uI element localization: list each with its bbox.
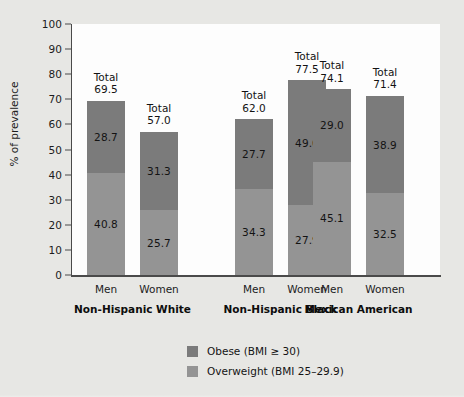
y-tick-label: 0	[0, 269, 62, 281]
y-tick-mark	[65, 249, 71, 250]
bar-segment-value: 31.3	[147, 165, 171, 177]
bar-segment-value: 34.3	[242, 226, 266, 238]
legend-item: Obese (BMI ≥ 30)	[187, 341, 344, 361]
bar-segment-overweight: 45.1	[313, 162, 351, 275]
bar-segment-obese: 38.9	[366, 96, 404, 194]
y-tick-mark	[65, 275, 71, 276]
bar-total-label: Total62.0	[219, 89, 289, 114]
chart-figure: % of prevalence 0102030405060708090100 2…	[0, 0, 464, 397]
bar-segment-value: 28.7	[94, 131, 118, 143]
y-tick-label: 70	[0, 93, 62, 105]
bar-segment-obese: 29.0	[313, 89, 351, 162]
bar-segment-obese: 28.7	[87, 101, 125, 173]
bar-total-word: Total	[219, 89, 289, 102]
bar-segment-overweight: 40.8	[87, 173, 125, 275]
y-axis-line	[71, 24, 72, 276]
y-tick-label: 40	[0, 169, 62, 181]
bar-total-value: 57.0	[124, 114, 194, 127]
y-tick-label: 100	[0, 18, 62, 30]
bar: 28.740.8	[87, 101, 125, 275]
bar-segment-overweight: 34.3	[235, 189, 273, 275]
y-tick-mark	[65, 149, 71, 150]
bar-total-word: Total	[71, 71, 141, 84]
bar-segment-overweight: 25.7	[140, 210, 178, 275]
x-axis-line	[71, 275, 441, 277]
bar-total-value: 69.5	[71, 83, 141, 96]
x-group-label: Mexican American	[279, 303, 439, 315]
bar-segment-overweight: 32.5	[366, 193, 404, 275]
bar-segment-value: 38.9	[373, 139, 397, 151]
y-tick-label: 30	[0, 194, 62, 206]
bar-segment-value: 32.5	[373, 228, 397, 240]
legend-swatch-icon	[187, 366, 198, 377]
bar-total-label: Total71.4	[350, 66, 420, 91]
chart-legend: Obese (BMI ≥ 30)Overweight (BMI 25–29.9)	[187, 341, 344, 381]
y-tick-mark	[65, 224, 71, 225]
x-group-label: Non-Hispanic White	[53, 303, 213, 315]
y-tick-mark	[65, 124, 71, 125]
y-tick-mark	[65, 199, 71, 200]
legend-label: Overweight (BMI 25–29.9)	[207, 365, 344, 377]
bar-segment-value: 45.1	[320, 212, 344, 224]
bar-segment-obese: 31.3	[140, 132, 178, 211]
bar-segment-value: 27.7	[242, 148, 266, 160]
x-tick-label: Women	[350, 283, 420, 295]
bar-total-label: Total57.0	[124, 102, 194, 127]
legend-label: Obese (BMI ≥ 30)	[207, 345, 300, 357]
bar: 31.325.7	[140, 132, 178, 275]
bar-segment-value: 29.0	[320, 119, 344, 131]
bar-segment-value: 25.7	[147, 237, 171, 249]
y-tick-mark	[65, 49, 71, 50]
y-tick-mark	[65, 24, 71, 25]
y-tick-label: 10	[0, 244, 62, 256]
x-tick-label: Women	[124, 283, 194, 295]
bar: 38.932.5	[366, 96, 404, 275]
bar-segment-obese: 27.7	[235, 119, 273, 189]
y-tick-label: 20	[0, 219, 62, 231]
bar-total-value: 62.0	[219, 102, 289, 115]
bar-total-word: Total	[350, 66, 420, 79]
y-tick-label: 80	[0, 68, 62, 80]
bar: 27.734.3	[235, 119, 273, 275]
bar-segment-value: 40.8	[94, 218, 118, 230]
legend-item: Overweight (BMI 25–29.9)	[187, 361, 344, 381]
bar: 29.045.1	[313, 89, 351, 275]
y-tick-label: 90	[0, 43, 62, 55]
bar-total-label: Total69.5	[71, 71, 141, 96]
bar-total-word: Total	[124, 102, 194, 115]
y-tick-label: 60	[0, 118, 62, 130]
y-tick-mark	[65, 99, 71, 100]
bar-total-value: 71.4	[350, 78, 420, 91]
y-tick-label: 50	[0, 144, 62, 156]
y-tick-mark	[65, 174, 71, 175]
legend-swatch-icon	[187, 346, 198, 357]
